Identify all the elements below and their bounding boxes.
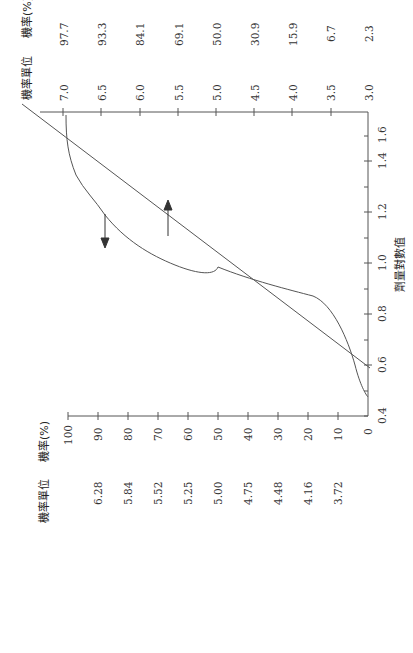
dose-label: 0.6 bbox=[376, 356, 388, 373]
pct-label: 15.9 bbox=[287, 23, 299, 46]
dose-axis-title: 劑量對數值 bbox=[393, 237, 407, 292]
prob-label: 60 bbox=[182, 428, 194, 441]
prob-label: 40 bbox=[242, 428, 254, 441]
pct-label: 69.1 bbox=[173, 23, 185, 46]
probability-header: 機率(%) bbox=[37, 421, 51, 462]
probit-label: 4.5 bbox=[249, 84, 261, 101]
up-arrow-icon bbox=[164, 200, 172, 236]
probit-label: 6.0 bbox=[134, 84, 146, 101]
probit2-label: 5.00 bbox=[212, 482, 224, 505]
prob-label: 80 bbox=[122, 428, 134, 441]
probit-percent-header: 機率(%) bbox=[20, 0, 34, 38]
dose-label: 1.2 bbox=[376, 203, 388, 220]
probit-header: 機率單位 bbox=[20, 56, 34, 100]
secondary-probit-header: 機率單位 bbox=[37, 479, 51, 523]
dose-label: 0.4 bbox=[376, 407, 388, 424]
dose-axis bbox=[364, 112, 372, 416]
prob-label: 20 bbox=[302, 428, 314, 441]
probit-percent-labels: 97.7 93.3 84.1 69.1 50.0 30.9 15.9 6.7 2… bbox=[58, 23, 375, 46]
chart-canvas: 機率(%) 機率單位 97.7 93.3 84.1 69.1 50.0 30.9… bbox=[0, 0, 413, 653]
pct-label: 30.9 bbox=[249, 23, 261, 46]
probit-label: 5.0 bbox=[211, 84, 223, 101]
probit-label: 3.0 bbox=[363, 84, 375, 101]
probit-label: 4.0 bbox=[287, 84, 299, 101]
prob-label: 10 bbox=[332, 428, 344, 441]
probability-labels: 100 90 80 70 60 50 40 30 20 10 0 bbox=[62, 425, 374, 445]
dose-label: 1.4 bbox=[376, 152, 388, 169]
pct-label: 84.1 bbox=[134, 23, 146, 46]
prob-label: 90 bbox=[92, 428, 104, 441]
prob-label: 50 bbox=[212, 428, 224, 441]
pct-label: 50.0 bbox=[211, 23, 223, 46]
probit-label: 5.5 bbox=[173, 84, 185, 101]
probit2-label: 5.52 bbox=[152, 482, 164, 505]
pct-label: 2.3 bbox=[363, 25, 375, 42]
sigmoid-curve bbox=[66, 115, 368, 397]
probit2-label: 6.28 bbox=[92, 482, 104, 505]
probit2-label: 3.72 bbox=[332, 482, 344, 505]
pct-label: 97.7 bbox=[58, 23, 70, 46]
probit2-label: 5.84 bbox=[122, 481, 134, 505]
probit2-label: 4.16 bbox=[302, 481, 314, 505]
probit-line bbox=[22, 104, 370, 368]
probit2-label: 4.48 bbox=[272, 482, 284, 505]
dose-label: 0.8 bbox=[376, 305, 388, 322]
prob-label: 0 bbox=[362, 428, 374, 435]
probit-axis bbox=[40, 108, 368, 116]
probability-axis bbox=[68, 412, 368, 420]
probit-label: 6.5 bbox=[96, 84, 108, 101]
prob-label: 30 bbox=[272, 428, 284, 441]
dose-labels: 0.4 0.6 0.8 1.0 1.2 1.4 1.6 劑量對數值 bbox=[376, 126, 407, 424]
pct-label: 6.7 bbox=[325, 25, 337, 42]
probit-labels: 7.0 6.5 6.0 5.5 5.0 4.5 4.0 3.5 3.0 bbox=[58, 84, 375, 101]
pct-label: 93.3 bbox=[96, 23, 108, 46]
prob-label: 70 bbox=[152, 428, 164, 441]
prob-label: 100 bbox=[62, 425, 74, 445]
probit-label: 3.5 bbox=[325, 84, 337, 101]
secondary-probit-labels: 6.28 5.84 5.52 5.25 5.00 4.75 4.48 4.16 … bbox=[92, 481, 344, 505]
probit2-label: 4.75 bbox=[242, 482, 254, 505]
probit-label: 7.0 bbox=[58, 84, 70, 101]
probit2-label: 5.25 bbox=[182, 482, 194, 505]
dose-label: 1.0 bbox=[376, 254, 388, 271]
top-headers: 機率(%) 機率單位 bbox=[20, 0, 34, 100]
dose-label: 1.6 bbox=[376, 126, 388, 143]
